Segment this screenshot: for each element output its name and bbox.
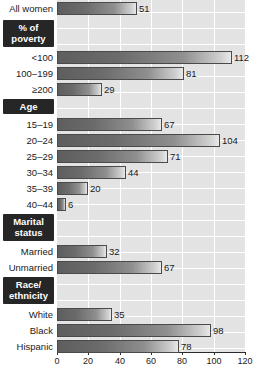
bar-row: Hispanic78	[0, 340, 268, 353]
bar-value-label: 35	[112, 308, 125, 321]
bar-row-label: 15–19	[0, 118, 53, 131]
bar-value-label: 71	[168, 150, 181, 163]
bar-row-label: <100	[0, 51, 53, 64]
bar-row: All women51	[0, 2, 268, 15]
bar-value-label: 67	[162, 261, 175, 274]
gridline-horizontal	[57, 108, 245, 109]
section-header-age: Age	[3, 99, 54, 114]
bar-row: 15–1967	[0, 118, 268, 131]
bar	[57, 67, 184, 80]
x-tick-label: 80	[170, 356, 194, 367]
bar	[57, 2, 137, 15]
gridline-horizontal	[57, 236, 245, 237]
bar-value-label: 51	[137, 2, 150, 15]
bar-row: 20–24104	[0, 134, 268, 147]
bar-row-label: Hispanic	[0, 340, 53, 353]
bar-row: Black98	[0, 324, 268, 337]
bar	[57, 166, 126, 179]
bar-row: 35–3920	[0, 182, 268, 195]
bar-value-label: 20	[88, 182, 101, 195]
x-tick-label: 100	[202, 356, 226, 367]
section-header-line: poverty	[3, 33, 54, 44]
bar-row-label: Married	[0, 245, 53, 258]
bar-row: 25–2971	[0, 150, 268, 163]
section-header-race-ethnicity: Race/ethnicity	[3, 277, 54, 304]
bar-value-label: 44	[126, 166, 139, 179]
bar-row-label: 30–34	[0, 166, 53, 179]
bar-row: ≥20029	[0, 83, 268, 96]
bar-row-label: White	[0, 308, 53, 321]
section-header-of-poverty: % ofpoverty	[3, 20, 54, 47]
bar-row-label: 35–39	[0, 182, 53, 195]
bar	[57, 324, 211, 337]
bar-value-label: 6	[66, 198, 73, 211]
x-tick-label: 40	[108, 356, 132, 367]
bar	[57, 308, 112, 321]
bar-value-label: 32	[107, 245, 120, 258]
bar-value-label: 29	[102, 83, 115, 96]
bar	[57, 83, 102, 96]
bar-row-label: All women	[0, 2, 53, 15]
gridline-horizontal	[57, 300, 245, 301]
bar	[57, 245, 107, 258]
section-header-marital-status: Maritalstatus	[3, 214, 54, 241]
gridline-horizontal	[57, 220, 245, 221]
gridline-horizontal	[57, 284, 245, 285]
bar	[57, 261, 162, 274]
bar-row: 100–19981	[0, 67, 268, 80]
section-header-line: status	[3, 227, 54, 238]
x-tick-label: 120	[233, 356, 257, 367]
gridline-horizontal	[57, 28, 245, 29]
bar-row-label: 25–29	[0, 150, 53, 163]
bar	[57, 134, 220, 147]
bar	[57, 51, 232, 64]
bar	[57, 182, 88, 195]
bar-row-label: 20–24	[0, 134, 53, 147]
x-tick-label: 20	[76, 356, 100, 367]
bar-value-label: 78	[179, 340, 192, 353]
section-header-line: Marital	[3, 216, 54, 227]
x-tick-label: 0	[45, 356, 69, 367]
bar-chart-figure: 020406080100120 All women51<100112100–19…	[0, 0, 268, 368]
bar-value-label: 67	[162, 118, 175, 131]
x-tick-label: 60	[139, 356, 163, 367]
bar	[57, 118, 162, 131]
bar-row: 30–3444	[0, 166, 268, 179]
gridline-horizontal	[57, 44, 245, 45]
bar-row: Unmarried67	[0, 261, 268, 274]
bar-row-label: Unmarried	[0, 261, 53, 274]
bar	[57, 340, 179, 353]
bar-row: 40–446	[0, 198, 268, 211]
bar-row: Married32	[0, 245, 268, 258]
bar-value-label: 81	[184, 67, 197, 80]
section-header-line: % of	[3, 22, 54, 33]
bar-row: <100112	[0, 51, 268, 64]
bar-row-label: 40–44	[0, 198, 53, 211]
section-header-line: Race/	[3, 279, 54, 290]
bar-row: White35	[0, 308, 268, 321]
section-header-line: ethnicity	[3, 290, 54, 301]
bar-value-label: 112	[232, 51, 249, 64]
bar-row-label: Black	[0, 324, 53, 337]
bar-value-label: 104	[220, 134, 238, 147]
bar-value-label: 98	[211, 324, 224, 337]
bar-row-label: ≥200	[0, 83, 53, 96]
bar-row-label: 100–199	[0, 67, 53, 80]
bar	[57, 150, 168, 163]
bar	[57, 198, 66, 211]
section-header-line: Age	[3, 101, 54, 112]
